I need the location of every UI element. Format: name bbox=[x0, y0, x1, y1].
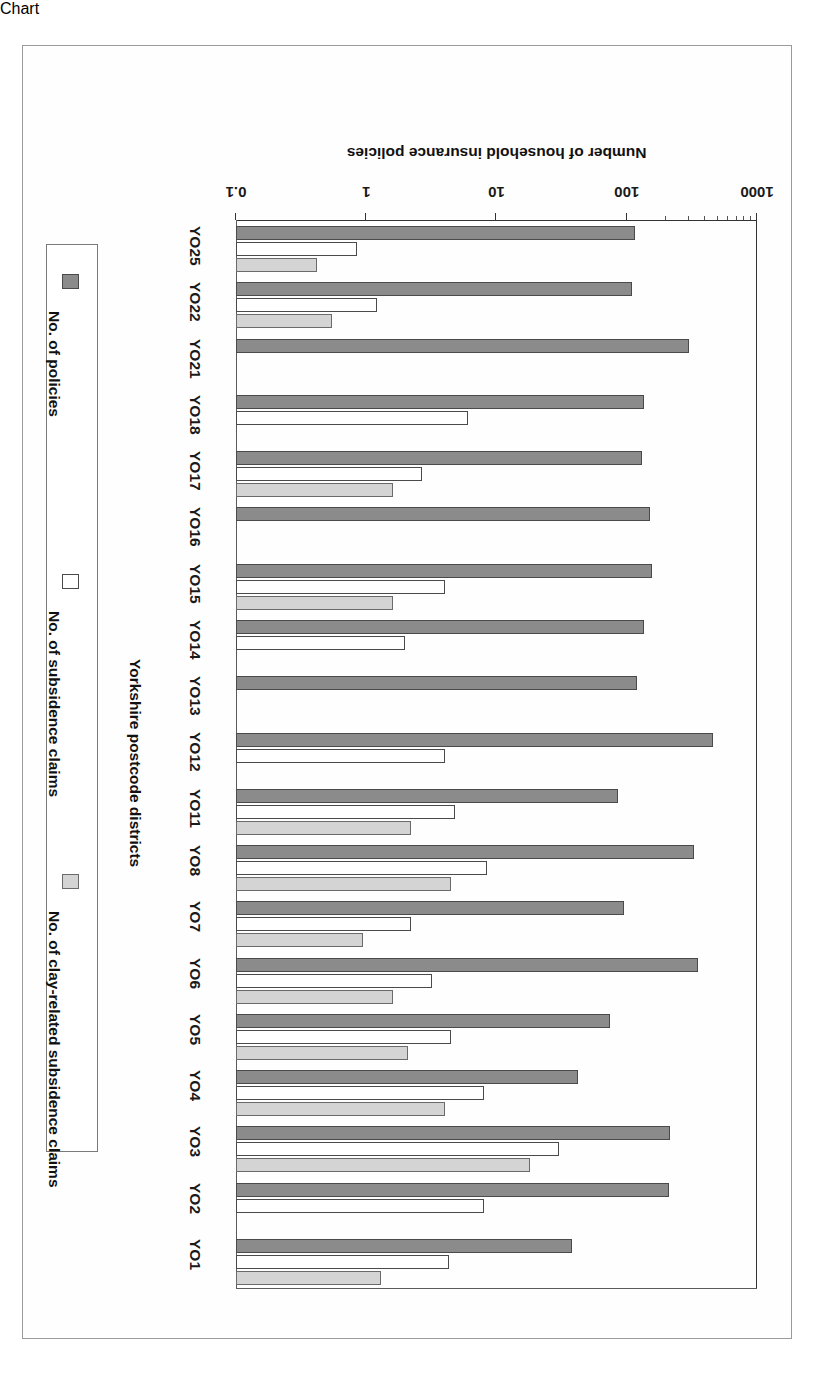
legend-label-policies: No. of policies bbox=[45, 311, 63, 417]
category-label-yo22: YO22 bbox=[186, 282, 204, 322]
bar-policies bbox=[236, 564, 652, 578]
bar-subsidence bbox=[236, 467, 422, 481]
bar-group bbox=[236, 614, 757, 670]
bar-policies bbox=[236, 226, 635, 240]
value-axis-tick-label: 0.1 bbox=[226, 184, 247, 201]
legend-label-subsidence: No. of subsidence claims bbox=[45, 611, 63, 797]
category-label-yo13: YO13 bbox=[186, 676, 204, 716]
category-label-yo25: YO25 bbox=[186, 226, 204, 266]
bar-subsidence bbox=[236, 1142, 559, 1156]
bar-policies bbox=[236, 676, 637, 690]
value-axis-tick-label: 100 bbox=[614, 184, 639, 201]
x-axis-title: Yorkshire postcode districts bbox=[126, 660, 144, 868]
legend-label-clay: No. of clay-related subsidence claims bbox=[45, 911, 63, 1188]
legend-swatch-policies bbox=[62, 274, 79, 289]
value-axis-tick-major bbox=[365, 213, 366, 220]
bar-policies bbox=[236, 282, 632, 296]
category-label-yo12: YO12 bbox=[186, 733, 204, 773]
bar-clay bbox=[236, 1271, 381, 1285]
chart-legend: No. of policiesNo. of subsidence claimsN… bbox=[46, 244, 98, 1152]
bar-group bbox=[236, 726, 757, 782]
bar-subsidence bbox=[236, 749, 445, 763]
bar-policies bbox=[236, 395, 644, 409]
value-axis-tick-label: 1 bbox=[362, 184, 370, 201]
category-label-yo17: YO17 bbox=[186, 451, 204, 491]
plot-area: 10001001010.1 YO1YO2YO3YO4YO5YO6YO7YO8YO… bbox=[236, 220, 757, 1289]
bar-group bbox=[236, 1233, 757, 1289]
bar-group bbox=[236, 276, 757, 332]
category-label-yo11: YO11 bbox=[186, 789, 204, 828]
bar-clay bbox=[236, 1158, 530, 1172]
bar-subsidence bbox=[236, 861, 487, 875]
bar-clay bbox=[236, 314, 332, 328]
bar-group bbox=[236, 501, 757, 557]
value-axis-tick-major bbox=[626, 213, 627, 220]
category-label-yo8: YO8 bbox=[186, 845, 204, 876]
bar-subsidence bbox=[236, 1199, 484, 1213]
bar-group bbox=[236, 951, 757, 1007]
bar-group bbox=[236, 558, 757, 614]
bar-policies bbox=[236, 451, 642, 465]
bar-clay bbox=[236, 877, 451, 891]
bar-policies bbox=[236, 1014, 610, 1028]
category-label-yo21: YO21 bbox=[186, 339, 204, 379]
bar-group bbox=[236, 1120, 757, 1176]
bar-group bbox=[236, 670, 757, 726]
bar-clay bbox=[236, 483, 393, 497]
legend-swatch-subsidence bbox=[62, 574, 79, 589]
category-label-yo6: YO6 bbox=[186, 958, 204, 989]
bar-policies bbox=[236, 789, 618, 803]
bar-group bbox=[236, 389, 757, 445]
category-label-yo15: YO15 bbox=[186, 564, 204, 604]
bar-clay bbox=[236, 1046, 408, 1060]
bar-clay bbox=[236, 990, 393, 1004]
bar-group bbox=[236, 839, 757, 895]
category-label-yo18: YO18 bbox=[186, 395, 204, 435]
bar-group bbox=[236, 445, 757, 501]
rotated-figure-canvas: 10001001010.1 YO1YO2YO3YO4YO5YO6YO7YO8YO… bbox=[0, 0, 814, 1385]
bar-group bbox=[236, 895, 757, 951]
bar-subsidence bbox=[236, 917, 411, 931]
bar-subsidence bbox=[236, 1086, 484, 1100]
bar-group bbox=[236, 783, 757, 839]
bar-policies bbox=[236, 845, 694, 859]
bar-group bbox=[236, 1008, 757, 1064]
bar-subsidence bbox=[236, 242, 357, 256]
bar-clay bbox=[236, 821, 411, 835]
bar-subsidence bbox=[236, 636, 405, 650]
bar-policies bbox=[236, 1239, 572, 1253]
bar-policies bbox=[236, 1183, 669, 1197]
y-axis-title: Number of household insurance policies bbox=[347, 144, 647, 162]
bar-group bbox=[236, 1177, 757, 1233]
bar-group bbox=[236, 220, 757, 276]
bar-clay bbox=[236, 258, 317, 272]
bar-group bbox=[236, 333, 757, 389]
bar-subsidence bbox=[236, 1030, 451, 1044]
bar-policies bbox=[236, 1126, 670, 1140]
value-axis-tick-major bbox=[235, 213, 236, 220]
bar-subsidence bbox=[236, 298, 377, 312]
bar-clay bbox=[236, 1102, 445, 1116]
bar-subsidence bbox=[236, 805, 455, 819]
value-axis-tick-major bbox=[496, 213, 497, 220]
bar-policies bbox=[236, 733, 713, 747]
category-label-yo1: YO1 bbox=[186, 1239, 204, 1270]
value-axis-tick-major bbox=[756, 213, 757, 220]
value-axis-tick-label: 10 bbox=[488, 184, 505, 201]
bar-policies bbox=[236, 339, 689, 353]
category-label-yo7: YO7 bbox=[186, 901, 204, 932]
category-label-yo3: YO3 bbox=[186, 1126, 204, 1157]
bar-policies bbox=[236, 1070, 578, 1084]
bar-clay bbox=[236, 596, 393, 610]
category-label-yo5: YO5 bbox=[186, 1014, 204, 1045]
bar-subsidence bbox=[236, 411, 468, 425]
bar-policies bbox=[236, 958, 698, 972]
category-label-yo14: YO14 bbox=[186, 620, 204, 660]
category-label-yo16: YO16 bbox=[186, 507, 204, 547]
category-label-yo2: YO2 bbox=[186, 1183, 204, 1214]
bar-clay bbox=[236, 933, 363, 947]
bar-subsidence bbox=[236, 974, 432, 988]
bar-policies bbox=[236, 507, 650, 521]
bar-subsidence bbox=[236, 580, 445, 594]
bar-policies bbox=[236, 901, 624, 915]
